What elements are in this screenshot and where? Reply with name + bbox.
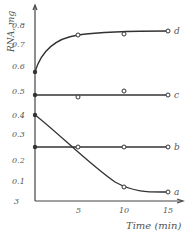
y-tick: 0.4 — [12, 111, 25, 120]
series-label-c: c — [174, 90, 179, 100]
series-c: c — [33, 89, 179, 100]
y-tick: 0.1 — [12, 177, 25, 186]
series-d: d — [33, 26, 180, 74]
series-b: b — [33, 142, 180, 152]
x-tick-labels: 5 10 15 — [76, 206, 173, 215]
x-axis-label: Time (min) — [126, 220, 181, 231]
series-label-b: b — [174, 142, 180, 152]
y-tick: 0.5 — [12, 87, 25, 96]
y-tick: 0.6 — [12, 62, 25, 71]
y-tick: 0.3 — [12, 130, 25, 139]
x-tick: 15 — [163, 206, 173, 215]
y-tick: 0.2 — [12, 156, 25, 165]
series-a: a — [33, 113, 180, 197]
rna-time-chart: 3 0.1 0.2 0.3 0.4 0.5 0.6 0.7 0.8 RNA, m… — [0, 0, 194, 238]
x-tick: 5 — [76, 206, 81, 215]
axes — [33, 5, 183, 203]
series-label-d: d — [174, 26, 180, 36]
y-tick: 3 — [14, 197, 19, 206]
series-label-a: a — [174, 187, 179, 197]
x-tick: 10 — [119, 206, 129, 215]
y-axis-label: RNA, mg — [6, 11, 16, 53]
